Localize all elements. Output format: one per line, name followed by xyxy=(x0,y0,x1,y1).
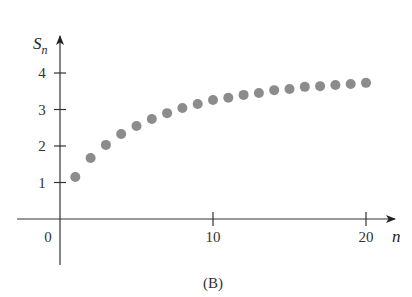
data-point xyxy=(193,99,203,109)
data-point xyxy=(285,84,295,94)
data-point xyxy=(116,129,126,139)
y-tick-label: 3 xyxy=(38,102,46,118)
data-point xyxy=(101,140,111,150)
data-point xyxy=(177,103,187,113)
data-point xyxy=(208,95,218,105)
data-point xyxy=(70,172,80,182)
data-point xyxy=(300,82,310,92)
data-points xyxy=(70,78,371,182)
x-tick-label: 10 xyxy=(206,229,221,245)
data-point xyxy=(86,153,96,163)
y-axis-label-subscript: n xyxy=(42,43,48,57)
x-ticks: 1020 xyxy=(206,212,374,245)
y-tick-label: 2 xyxy=(38,138,46,154)
x-tick-label: 20 xyxy=(359,229,374,245)
data-point xyxy=(147,114,157,124)
data-point xyxy=(330,80,340,90)
data-point xyxy=(132,121,142,131)
data-point xyxy=(315,81,325,91)
data-point xyxy=(162,108,172,118)
chart: 1234 1020 0 Sn n (B) xyxy=(0,0,412,297)
figure-caption: (B) xyxy=(203,275,223,292)
data-point xyxy=(223,93,233,103)
y-ticks: 1234 xyxy=(38,65,66,191)
y-tick-label: 1 xyxy=(38,175,46,191)
y-tick-label: 4 xyxy=(38,65,46,81)
data-point xyxy=(239,90,249,100)
x-axis-label: n xyxy=(392,227,401,246)
origin-label: 0 xyxy=(44,229,52,245)
data-point xyxy=(254,88,264,98)
data-point xyxy=(346,79,356,89)
data-point xyxy=(269,85,279,95)
data-point xyxy=(361,78,371,88)
y-axis-label: Sn xyxy=(33,34,48,57)
